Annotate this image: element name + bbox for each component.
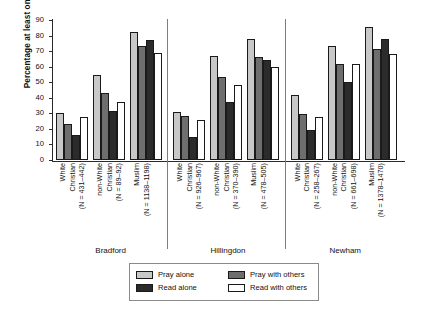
y-axis-tick-label: 90 (14, 16, 44, 24)
bar (389, 54, 397, 160)
x-axis-line (52, 161, 405, 162)
legend-swatch-icon (136, 271, 153, 279)
legend-item-pray-alone[interactable]: Pray alone (136, 271, 228, 279)
legend-row: Read alone Read with others (136, 281, 312, 294)
panel-separator (167, 19, 168, 249)
bar (365, 27, 373, 160)
x-axis-category-label: Christian (302, 163, 312, 249)
bar (197, 120, 205, 160)
bar (336, 64, 344, 160)
y-axis-tick-mark (49, 98, 52, 99)
y-axis-tick-label: 60 (14, 63, 44, 71)
x-axis-category-label: (N = 370–390) (231, 163, 241, 249)
y-axis-tick-label: 80 (14, 32, 44, 40)
legend-swatch-icon (228, 271, 245, 279)
bar (234, 85, 242, 160)
bar (154, 53, 162, 160)
bar (255, 57, 263, 160)
x-axis-category-label: non-White (212, 163, 222, 249)
legend-item-read-with-others[interactable]: Read with others (228, 284, 307, 292)
y-axis-tick-mark (49, 144, 52, 145)
legend-label: Read with others (250, 284, 307, 292)
y-axis-tick-mark (49, 113, 52, 114)
bar (173, 112, 181, 160)
x-axis-category-label: (N = 1138–1198) (142, 163, 152, 249)
town-label: Hillingdon (169, 246, 286, 255)
bar-chart: Percentage at least once per week 010203… (0, 0, 421, 313)
bar (117, 102, 125, 160)
x-axis-category-label: Muslim (249, 163, 259, 249)
bar (64, 124, 72, 160)
y-axis-line (52, 19, 53, 161)
y-axis-tick-mark (49, 160, 52, 161)
bar (373, 49, 381, 160)
bar (56, 113, 64, 160)
x-axis-category-label: (N = 926–967) (194, 163, 204, 249)
bar (307, 130, 315, 160)
y-axis-tick-mark (49, 20, 52, 21)
y-axis-tick-mark (49, 51, 52, 52)
bar (181, 116, 189, 160)
x-axis-category-label: (N = 1378–1470) (376, 163, 386, 249)
x-axis-category-label: Christian (105, 163, 115, 249)
bar (138, 46, 146, 160)
town-label: Newham (287, 246, 404, 255)
legend-item-read-alone[interactable]: Read alone (136, 284, 228, 292)
y-axis-tick-label: 70 (14, 47, 44, 55)
bar (344, 82, 352, 160)
bar (146, 40, 154, 160)
y-axis-tick-mark (49, 67, 52, 68)
x-axis-category-label: White (175, 163, 185, 249)
y-axis-tick-label: 30 (14, 110, 44, 118)
x-axis-category-label: Muslim (132, 163, 142, 249)
y-axis-tick-mark (49, 129, 52, 130)
y-axis-tick-mark (49, 36, 52, 37)
bar (93, 75, 101, 160)
bar (218, 77, 226, 160)
legend-row: Pray alone Pray with others (136, 268, 312, 281)
bar (72, 135, 80, 160)
y-axis-tick-label: 20 (14, 125, 44, 133)
bar (271, 67, 279, 160)
bar (101, 93, 109, 160)
panel-separator (285, 19, 286, 249)
legend-item-pray-with-others[interactable]: Pray with others (228, 271, 304, 279)
bar (352, 64, 360, 160)
bar (210, 56, 218, 160)
bar (315, 117, 323, 160)
legend-swatch-icon (136, 284, 153, 292)
bar (109, 111, 117, 160)
y-axis-tick-label: 0 (14, 156, 44, 164)
legend-label: Pray with others (250, 271, 304, 279)
x-axis-category-label: (N = 478–505) (259, 163, 269, 249)
y-axis-tick-mark (49, 82, 52, 83)
x-axis-category-label: Christian (339, 163, 349, 249)
x-axis-category-label: (N = 661–698) (349, 163, 359, 249)
y-axis-tick-label: 50 (14, 78, 44, 86)
x-axis-category-label: White (58, 163, 68, 249)
bar (189, 137, 197, 160)
y-axis-tick-label: 40 (14, 94, 44, 102)
x-axis-category-label: (N = 89–92) (114, 163, 124, 249)
bar (80, 117, 88, 160)
bar (263, 60, 271, 160)
x-axis-category-label: (N = 431–442) (77, 163, 87, 249)
bar (328, 46, 336, 160)
bar (299, 114, 307, 160)
legend-swatch-icon (228, 284, 245, 292)
y-axis-tick-label: 10 (14, 141, 44, 149)
legend-label: Pray alone (158, 271, 194, 279)
bar (291, 95, 299, 160)
legend-label: Read alone (158, 284, 197, 292)
town-label: Bradford (52, 246, 169, 255)
x-axis-category-label: Christian (68, 163, 78, 249)
legend: Pray alone Pray with others Read alone R… (129, 263, 319, 301)
x-axis-category-label: non-White (95, 163, 105, 249)
x-axis-category-label: (N = 258–267) (312, 163, 322, 249)
bar (381, 39, 389, 160)
bar (247, 39, 255, 160)
bar (130, 32, 138, 160)
bar (226, 102, 234, 160)
